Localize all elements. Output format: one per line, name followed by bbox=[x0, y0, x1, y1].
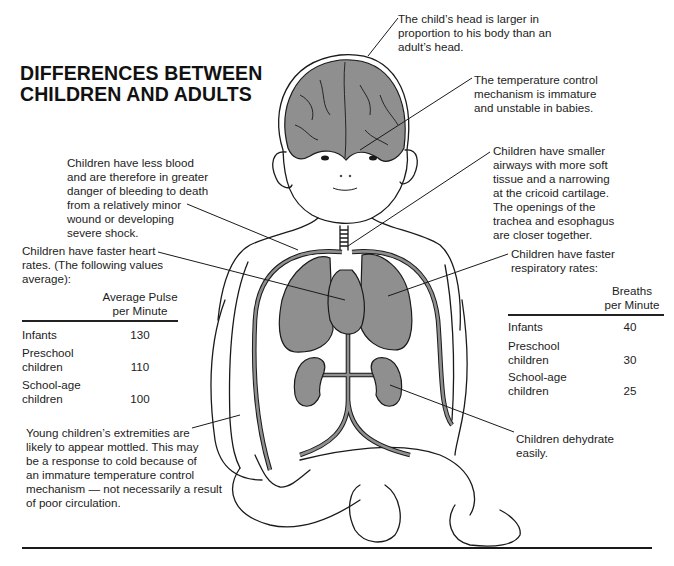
note-line: airways with more soft bbox=[493, 158, 614, 172]
left-lung bbox=[279, 257, 333, 352]
note-line: mechanism is immature bbox=[474, 87, 598, 101]
note-line: Children have faster heart bbox=[22, 244, 163, 258]
note-line: from a relatively minor bbox=[67, 198, 208, 212]
right-arm-outer bbox=[455, 300, 467, 455]
note-line: and unstable in babies. bbox=[474, 101, 598, 115]
note-line: mechanism — not necessarily a result bbox=[26, 482, 222, 496]
note-line: Children have faster bbox=[511, 247, 615, 261]
note-line: adult’s head. bbox=[398, 40, 551, 54]
note-line: tissue and a narrowing bbox=[493, 172, 614, 186]
note-smaller-airways: Children have smaller airways with more … bbox=[493, 144, 614, 242]
note-head-size: The child’s head is larger in proportion… bbox=[398, 12, 551, 54]
note-line: severe shock. bbox=[67, 226, 208, 240]
note-respiratory-rates: Children have faster respiratory rates: bbox=[511, 247, 615, 275]
left-foot bbox=[350, 485, 401, 542]
page-title: DIFFERENCES BETWEEN CHILDREN AND ADULTS bbox=[20, 63, 262, 105]
note-line: The openings of the bbox=[493, 200, 614, 214]
heart bbox=[328, 270, 364, 334]
note-line: average): bbox=[22, 272, 163, 286]
note-line: rates. (The following values bbox=[22, 258, 163, 272]
note-line: Young children’s extremities are bbox=[26, 426, 222, 440]
note-line: are closer together. bbox=[493, 228, 614, 242]
note-line: respiratory rates: bbox=[511, 261, 615, 275]
note-heart-rates: Children have faster heart rates. (The f… bbox=[22, 244, 163, 286]
note-mottled-extremities: Young children’s extremities are likely … bbox=[26, 426, 222, 510]
note-line: Children dehydrate bbox=[516, 432, 614, 446]
leader-airways bbox=[348, 152, 490, 246]
note-line: trachea and esophagus bbox=[493, 214, 614, 228]
title-line-1: DIFFERENCES BETWEEN bbox=[20, 63, 262, 84]
title-line-2: CHILDREN AND ADULTS bbox=[20, 84, 262, 105]
note-line: The child’s head is larger in bbox=[398, 12, 551, 26]
note-line: be a response to cold because of bbox=[26, 454, 222, 468]
note-line: The temperature control bbox=[474, 73, 598, 87]
right-leg bbox=[300, 447, 475, 515]
note-line: proportion to his body than an bbox=[398, 26, 551, 40]
leader-head bbox=[368, 18, 398, 56]
left-kidney bbox=[294, 358, 324, 407]
note-line: easily. bbox=[516, 446, 614, 460]
right-lung bbox=[360, 254, 412, 350]
note-line: Children have less blood bbox=[67, 156, 208, 170]
right-ear bbox=[400, 150, 417, 184]
note-line: wound or developing bbox=[67, 212, 208, 226]
note-temperature-control: The temperature control mechanism is imm… bbox=[474, 73, 598, 115]
torso-left bbox=[230, 262, 248, 468]
left-leg bbox=[233, 468, 360, 527]
bottom-divider bbox=[22, 547, 652, 549]
note-line: of poor circulation. bbox=[26, 496, 222, 510]
left-ear bbox=[273, 152, 292, 188]
torso-right bbox=[445, 265, 454, 420]
note-line: at the cricoid cartilage. bbox=[493, 186, 614, 200]
right-kidney bbox=[371, 358, 401, 407]
note-line: likely to appear mottled. This may bbox=[26, 440, 222, 454]
note-less-blood: Children have less blood and are therefo… bbox=[67, 156, 208, 240]
trachea bbox=[340, 226, 348, 250]
note-dehydration: Children dehydrate easily. bbox=[516, 432, 614, 460]
note-line: and are therefore in greater bbox=[67, 170, 208, 184]
note-line: an immature temperature control bbox=[26, 468, 222, 482]
note-line: Children have smaller bbox=[493, 144, 614, 158]
note-line: danger of bleeding to death bbox=[67, 184, 208, 198]
right-foot bbox=[450, 505, 520, 546]
